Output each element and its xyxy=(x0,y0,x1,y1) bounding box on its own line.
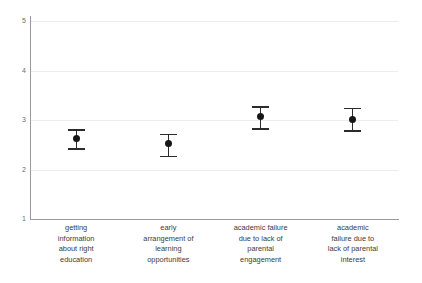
y-axis-tick-label: 1 xyxy=(4,215,26,223)
data-point-marker[interactable] xyxy=(73,135,80,142)
y-axis-tick-label: 2 xyxy=(4,166,26,174)
x-axis-category-label-line: due to lack of xyxy=(217,234,305,245)
y-axis-tick-label: 5 xyxy=(4,17,26,25)
chart-container: 54321 gettinginformationabout righteduca… xyxy=(0,0,422,283)
x-axis-category-label-line: academic failure xyxy=(217,223,305,234)
error-bar-cap-lower xyxy=(160,156,177,157)
error-bar-cap-lower xyxy=(344,130,361,131)
x-axis-category-label: gettinginformationabout righteducation xyxy=(30,223,122,281)
error-bar-cap-upper xyxy=(344,108,361,109)
x-axis-category-label-line: early xyxy=(124,223,212,234)
x-axis-category-label-line: lack of parental xyxy=(309,244,397,255)
x-axis-category-label: academicfailure due tolack of parentalin… xyxy=(307,223,399,281)
data-point-marker[interactable] xyxy=(349,116,356,123)
x-axis-category-label-line: learning xyxy=(124,244,212,255)
data-point-marker[interactable] xyxy=(257,113,264,120)
error-bar-cap-upper xyxy=(252,106,269,107)
y-axis-tick-label: 4 xyxy=(4,67,26,75)
x-axis-category-label-line: interest xyxy=(309,255,397,266)
x-axis-category-label: earlyarrangement oflearningopportunities xyxy=(122,223,214,281)
x-axis-category-label: academic failuredue to lack ofparentalen… xyxy=(215,223,307,281)
x-axis-category-label-line: education xyxy=(32,255,120,266)
x-axis-category-label-line: getting xyxy=(32,223,120,234)
error-bar-cap-lower xyxy=(68,148,85,149)
x-axis-category-label-line: information xyxy=(32,234,120,245)
error-bar-cap-upper xyxy=(68,129,85,130)
x-axis-category-label-line: opportunities xyxy=(124,255,212,266)
x-axis-category-label-line: engagement xyxy=(217,255,305,266)
error-bar-cap-lower xyxy=(252,128,269,129)
x-axis-category-label-line: arrangement of xyxy=(124,234,212,245)
x-axis-category-label-line: failure due to xyxy=(309,234,397,245)
y-axis-line xyxy=(30,16,31,220)
x-axis-category-label-line: academic xyxy=(309,223,397,234)
x-axis-category-labels: gettinginformationabout righteducationea… xyxy=(30,223,399,281)
y-axis-tick-label: 3 xyxy=(4,116,26,124)
y-axis-tick-labels: 54321 xyxy=(0,21,26,219)
data-point-marker[interactable] xyxy=(165,140,172,147)
x-axis-category-label-line: about right xyxy=(32,244,120,255)
error-bar-cap-upper xyxy=(160,134,177,135)
x-axis-category-label-line: parental xyxy=(217,244,305,255)
